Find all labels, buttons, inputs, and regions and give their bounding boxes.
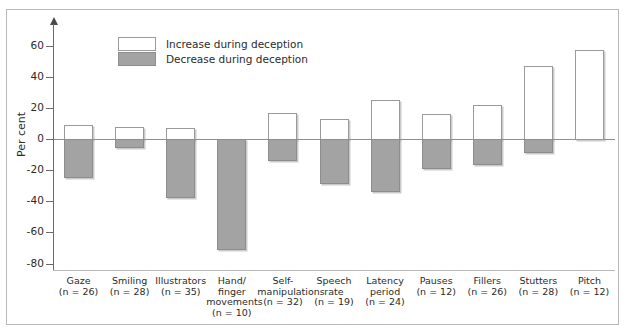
y-axis-tick: [46, 232, 54, 233]
y-axis-tick-label: 40: [0, 70, 44, 82]
category-sample-size: (n = 12): [411, 287, 462, 298]
x-axis-baseline: [53, 270, 615, 271]
legend-label-increase: Increase during deception: [166, 38, 303, 50]
category-name: Hand/ finger movements: [206, 276, 257, 308]
y-axis-tick-label: -40: [0, 194, 44, 206]
category-sample-size: (n = 10): [206, 308, 257, 319]
y-axis-tick-label: -60: [0, 225, 44, 237]
x-axis-label-1: Smiling(n = 28): [104, 276, 155, 297]
category-name: Fillers: [462, 276, 513, 287]
y-axis-tick-label: 0: [0, 132, 44, 144]
x-axis-label-10: Pitch(n = 12): [564, 276, 615, 297]
category-sample-size: (n = 26): [53, 287, 104, 298]
x-axis-label-5: Speech rate(n = 19): [308, 276, 359, 308]
bar-increase: [422, 114, 451, 140]
bar-increase: [575, 50, 604, 140]
y-axis-tick: [46, 139, 54, 140]
x-axis-label-9: Stutters(n = 28): [513, 276, 564, 297]
y-axis-tick: [46, 77, 54, 78]
legend-label-decrease: Decrease during deception: [166, 53, 308, 65]
category-sample-size: (n = 24): [360, 297, 411, 308]
legend-swatch-increase: [118, 37, 156, 51]
bar-decrease: [422, 139, 451, 169]
y-axis-tick-label: 60: [0, 39, 44, 51]
y-axis-tick-label: -80: [0, 257, 44, 269]
bar-decrease: [371, 139, 400, 192]
category-sample-size: (n = 32): [257, 297, 308, 308]
bar-increase: [524, 66, 553, 140]
category-name: Illustrators: [155, 276, 206, 287]
chart-figure: Per cent 6040200-20-40-60-80 Increase du…: [0, 0, 625, 334]
bar-decrease: [217, 139, 246, 250]
x-axis-label-7: Pauses(n = 12): [411, 276, 462, 297]
category-sample-size: (n = 28): [104, 287, 155, 298]
category-name: Self- manipulations: [257, 276, 308, 297]
bar-decrease: [166, 139, 195, 198]
bar-decrease: [320, 139, 349, 184]
y-axis-tick: [46, 170, 54, 171]
bar-increase: [320, 119, 349, 140]
y-axis-tick: [46, 264, 54, 265]
legend-swatch-decrease: [118, 52, 156, 66]
bar-decrease: [268, 139, 297, 161]
y-axis-tick: [46, 108, 54, 109]
bar-decrease: [64, 139, 93, 178]
x-axis-label-6: Latency period(n = 24): [360, 276, 411, 308]
x-axis-label-4: Self- manipulations(n = 32): [257, 276, 308, 308]
y-axis-tick-label: 20: [0, 101, 44, 113]
bar-decrease: [115, 139, 144, 148]
x-axis-label-0: Gaze(n = 26): [53, 276, 104, 297]
y-axis-tick-label: -20: [0, 163, 44, 175]
category-name: Stutters: [513, 276, 564, 287]
category-name: Smiling: [104, 276, 155, 287]
category-sample-size: (n = 12): [564, 287, 615, 298]
y-axis-tick: [46, 201, 54, 202]
category-name: Pauses: [411, 276, 462, 287]
category-name: Speech rate: [308, 276, 359, 297]
figure-border-right: [618, 9, 619, 325]
figure-border-bottom: [6, 324, 619, 325]
bar-increase: [473, 105, 502, 140]
bar-increase: [371, 100, 400, 140]
chart-legend: Increase during deceptionDecrease during…: [118, 36, 368, 66]
category-name: Gaze: [53, 276, 104, 287]
x-axis-label-3: Hand/ finger movements(n = 10): [206, 276, 257, 318]
bar-decrease: [524, 139, 553, 153]
category-sample-size: (n = 26): [462, 287, 513, 298]
bar-decrease: [473, 139, 502, 165]
category-sample-size: (n = 28): [513, 287, 564, 298]
y-axis-tick: [46, 46, 54, 47]
category-sample-size: (n = 19): [308, 297, 359, 308]
category-sample-size: (n = 35): [155, 287, 206, 298]
category-name: Pitch: [564, 276, 615, 287]
x-axis-label-2: Illustrators(n = 35): [155, 276, 206, 297]
category-name: Latency period: [360, 276, 411, 297]
legend-item-increase: Increase during deception: [118, 36, 368, 51]
legend-item-decrease: Decrease during deception: [118, 51, 368, 66]
figure-border-top: [6, 9, 619, 10]
bar-increase: [268, 113, 297, 140]
bar-increase: [64, 125, 93, 140]
x-axis-label-8: Fillers(n = 26): [462, 276, 513, 297]
